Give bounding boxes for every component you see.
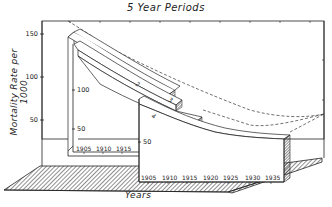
front-year-1930: 1930 [245, 174, 260, 181]
front-year-1910: 1910 [162, 174, 177, 181]
middle-tick-100: 100 [77, 86, 89, 94]
mortality-3d-chart: 5 Year Periods Mortality Rate per 1000 Y… [0, 0, 332, 207]
middle-year-1910: 1910 [96, 145, 111, 152]
front-year-1905: 1905 [141, 174, 156, 181]
middle-year-1915: 1915 [116, 145, 131, 152]
ribbon-2: 2 [74, 41, 182, 111]
middle-year-1905: 1905 [76, 145, 91, 152]
front-year-1920: 1920 [203, 174, 218, 181]
front-year-1925: 1925 [223, 174, 238, 181]
front-panel: 50 1905 1910 1915 1920 1925 1930 1935 4 [138, 96, 290, 184]
back-tick-50: 50 [30, 116, 38, 124]
front-year-1935: 1935 [265, 174, 280, 181]
front-year-1915: 1915 [182, 174, 197, 181]
chart-canvas: 150 100 50 100 [0, 0, 332, 207]
chart-title: 5 Year Periods [0, 2, 332, 13]
middle-tick-50: 50 [77, 125, 85, 133]
y-axis-label: Mortality Rate per 1000 [9, 37, 29, 147]
x-axis-label: Years [125, 190, 151, 200]
front-tick-50: 50 [143, 138, 151, 146]
